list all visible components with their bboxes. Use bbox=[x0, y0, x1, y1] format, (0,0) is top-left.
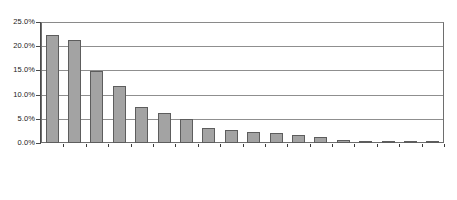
bar bbox=[337, 140, 350, 143]
y-tick-mark bbox=[36, 22, 41, 23]
x-tick-mark bbox=[243, 144, 244, 147]
bar bbox=[404, 141, 417, 143]
y-tick-mark bbox=[36, 119, 41, 120]
x-tick-mark bbox=[444, 144, 445, 147]
bar bbox=[113, 86, 126, 143]
x-tick-mark bbox=[422, 144, 423, 147]
x-tick-mark bbox=[220, 144, 221, 147]
x-tick-mark bbox=[108, 144, 109, 147]
x-tick-mark bbox=[265, 144, 266, 147]
x-tick-mark bbox=[399, 144, 400, 147]
y-tick-label: 0.0% bbox=[18, 139, 36, 147]
x-tick-mark bbox=[131, 144, 132, 147]
y-tick-mark bbox=[36, 95, 41, 96]
y-axis: 0.0%5.0%10.0%15.0%20.0%25.0% bbox=[0, 0, 38, 200]
y-tick-mark bbox=[36, 46, 41, 47]
bar bbox=[382, 141, 395, 143]
bar bbox=[90, 71, 103, 143]
bar bbox=[292, 135, 305, 143]
y-tick-mark bbox=[36, 143, 41, 144]
bar bbox=[247, 132, 260, 143]
y-tick-label: 25.0% bbox=[13, 18, 35, 26]
bar bbox=[180, 119, 193, 143]
x-tick-mark bbox=[354, 144, 355, 147]
bars-layer bbox=[41, 22, 444, 143]
x-tick-mark bbox=[377, 144, 378, 147]
x-tick-mark bbox=[153, 144, 154, 147]
x-axis: ChinaIndonesiaVietnamMexicoThailandSouth… bbox=[41, 148, 444, 200]
y-tick-label: 10.0% bbox=[13, 91, 35, 99]
bar bbox=[135, 107, 148, 143]
x-tick-mark bbox=[310, 144, 311, 147]
x-tick-mark bbox=[175, 144, 176, 147]
y-tick-label: 5.0% bbox=[18, 115, 36, 123]
y-tick-label: 20.0% bbox=[13, 42, 35, 50]
x-tick-mark bbox=[86, 144, 87, 147]
bar bbox=[359, 141, 372, 143]
bar bbox=[68, 40, 81, 143]
bar bbox=[46, 35, 59, 143]
y-tick-label: 15.0% bbox=[13, 67, 35, 75]
bar bbox=[270, 133, 283, 143]
x-tick-mark bbox=[63, 144, 64, 147]
x-tick-mark bbox=[198, 144, 199, 147]
y-tick-mark bbox=[36, 70, 41, 71]
bar bbox=[158, 113, 171, 143]
x-tick-mark bbox=[287, 144, 288, 147]
bar bbox=[225, 130, 238, 143]
bar bbox=[314, 137, 327, 143]
bar-chart: 0.0%5.0%10.0%15.0%20.0%25.0% ChinaIndone… bbox=[0, 0, 457, 200]
x-tick-mark bbox=[332, 144, 333, 147]
bar bbox=[202, 128, 215, 143]
bar bbox=[426, 141, 439, 143]
